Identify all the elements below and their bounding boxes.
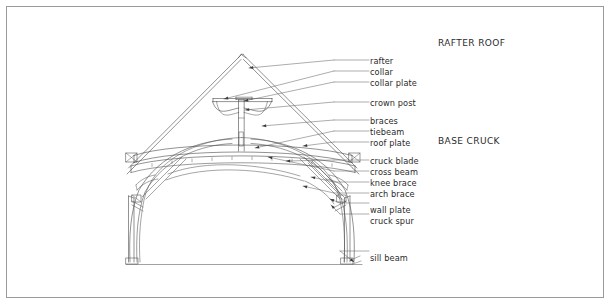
- leader-run-roof-plate: [303, 142, 334, 146]
- label-arch-brace: arch brace: [370, 190, 415, 198]
- arrowhead-braces: [262, 124, 266, 127]
- label-collar: collar: [370, 68, 393, 76]
- label-tiebeam: tiebeam: [370, 128, 404, 136]
- label-knee-brace: knee brace: [370, 179, 417, 187]
- label-cruck-spur: cruck spur: [370, 217, 414, 225]
- section-header: BASE CRUCK: [438, 137, 500, 146]
- arrowhead-roof-plate: [303, 144, 307, 147]
- label-crown-post: crown post: [370, 99, 416, 107]
- leader-run-collar-plate: [244, 82, 334, 101]
- left-diagonal-members: [142, 157, 186, 199]
- rafter-pair: [129, 54, 358, 168]
- cruck-spur-left: [132, 201, 143, 211]
- arrowhead-tiebeam: [255, 146, 259, 149]
- truss-drawing: [0, 0, 612, 305]
- label-sill-beam: sill beam: [370, 254, 408, 262]
- label-braces: braces: [370, 117, 398, 125]
- cruck-blade-left: [130, 139, 232, 262]
- arrowhead-collar: [224, 97, 228, 100]
- arrowhead-knee-brace: [311, 176, 315, 179]
- label-collar-plate: collar plate: [370, 79, 417, 87]
- section-header: RAFTER ROOF: [438, 39, 505, 48]
- cruck-blade-right: [251, 139, 354, 262]
- sill-beam-left: [126, 258, 138, 264]
- label-cross-beam: cross beam: [370, 168, 418, 176]
- arrowhead-rafter: [249, 66, 253, 69]
- arch-brace-left: [166, 165, 304, 181]
- label-wall-plate: wall plate: [370, 206, 411, 214]
- leader-run-arch-brace: [303, 186, 334, 193]
- label-rafter: rafter: [370, 57, 393, 65]
- arrowhead-cross-beam: [268, 156, 272, 159]
- arrowhead-collar-plate: [244, 99, 248, 102]
- figure-page: RAFTER ROOFBASE CRUCK raftercollarcollar…: [0, 0, 612, 305]
- roof-plate-left: [126, 153, 137, 162]
- label-roof-plate: roof plate: [370, 139, 410, 147]
- leader-run-braces: [262, 120, 334, 126]
- knee-brace-left: [136, 175, 158, 190]
- crown-post: [239, 100, 245, 151]
- leader-run-rafter: [249, 60, 334, 68]
- roof-plate-right: [349, 153, 360, 162]
- leader-run-crown-post: [245, 102, 334, 110]
- label-cruck-blade: cruck blade: [370, 157, 419, 165]
- leader-run-tiebeam: [255, 131, 334, 148]
- arrowhead-cruck-blade: [286, 159, 290, 162]
- leader-run-cross-beam: [268, 157, 334, 171]
